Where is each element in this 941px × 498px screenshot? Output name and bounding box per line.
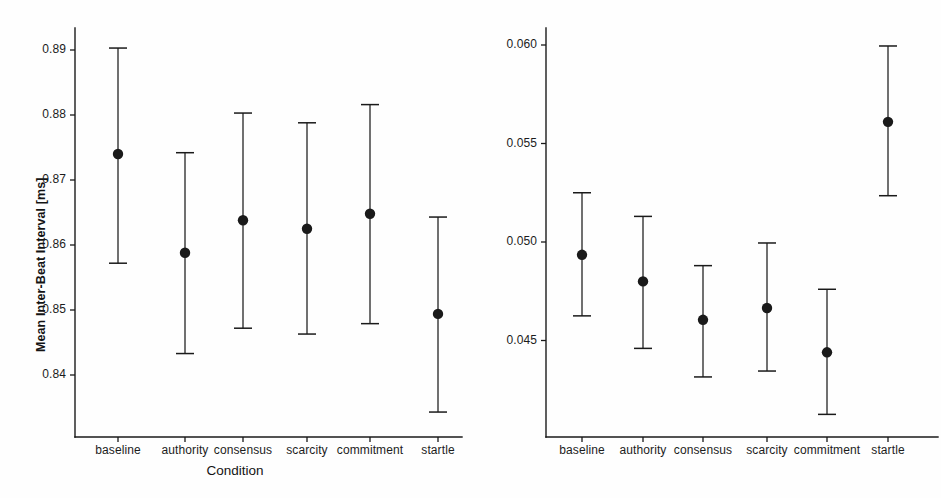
- data-point-marker-commitment: [365, 209, 375, 219]
- data-point-marker-startle: [433, 309, 443, 319]
- y-axis-tick-label: 0.88: [0, 107, 66, 121]
- figure-error-bar-plots: Mean Inter-Beat Interval [ms] Condition …: [0, 0, 941, 498]
- y-axis-label-left: Mean Inter-Beat Interval [ms]: [34, 178, 48, 352]
- data-point-marker-startle: [883, 117, 893, 127]
- y-axis-tick-label: 0.050: [470, 234, 537, 248]
- y-axis-tick-label: 0.85: [0, 302, 66, 316]
- y-axis-tick-label: 0.86: [0, 237, 66, 251]
- data-point-marker-baseline: [577, 250, 587, 260]
- data-point-marker-authority: [180, 248, 190, 258]
- y-axis-tick-label: 0.84: [0, 367, 66, 381]
- data-point-marker-scarcity: [762, 303, 772, 313]
- y-axis-tick-label: 0.045: [470, 333, 537, 347]
- plot-area-sdnn: [470, 0, 941, 498]
- x-axis-tick-label-startle: startle: [838, 443, 938, 457]
- data-point-marker-consensus: [238, 215, 248, 225]
- data-point-marker-commitment: [822, 347, 832, 357]
- data-point-marker-baseline: [113, 149, 123, 159]
- y-axis-tick-label: 0.055: [470, 136, 537, 150]
- data-point-marker-scarcity: [302, 224, 312, 234]
- y-axis-tick-label: 0.060: [470, 37, 537, 51]
- data-point-marker-consensus: [698, 315, 708, 325]
- data-point-marker-authority: [638, 276, 648, 286]
- panel-sdnn: Standard Deviation Normal-to-Normal inte…: [470, 0, 941, 498]
- panel-mean-ibi: Mean Inter-Beat Interval [ms] Condition …: [0, 0, 470, 498]
- y-axis-tick-label: 0.87: [0, 172, 66, 186]
- y-axis-tick-label: 0.89: [0, 42, 66, 56]
- plot-area-mean-ibi: [0, 0, 470, 498]
- x-axis-label-left: Condition: [0, 463, 470, 478]
